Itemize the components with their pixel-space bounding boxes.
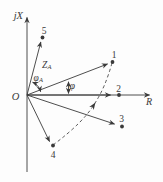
impedance-vector-label-subscript: A: [47, 63, 52, 70]
origin-label: O: [12, 91, 20, 102]
point-2-dot: [117, 93, 121, 97]
point-3-label: 3: [119, 114, 124, 124]
jx-axis-label: jX: [12, 10, 24, 21]
point-4-label: 4: [51, 150, 56, 160]
point-1-dot: [111, 60, 115, 64]
point-5-dot: [41, 36, 45, 40]
point-5-label: 5: [42, 26, 47, 36]
r-axis-label: R: [145, 96, 152, 107]
phi-a-angle-label-base: φ: [34, 73, 39, 83]
figure-background: [0, 0, 163, 182]
point-3-dot: [120, 125, 124, 129]
impedance-diagram-svg: jX R O 1 2 3 4 5 ZA φA φ: [0, 0, 163, 182]
phi-angle-label: φ: [70, 80, 76, 91]
phi-a-angle-label-subscript: A: [38, 76, 43, 83]
point-4-dot: [51, 144, 55, 148]
figure-canvas: jX R O 1 2 3 4 5 ZA φA φ: [0, 0, 163, 182]
point-2-label: 2: [116, 84, 121, 94]
point-1-label: 1: [112, 50, 117, 60]
